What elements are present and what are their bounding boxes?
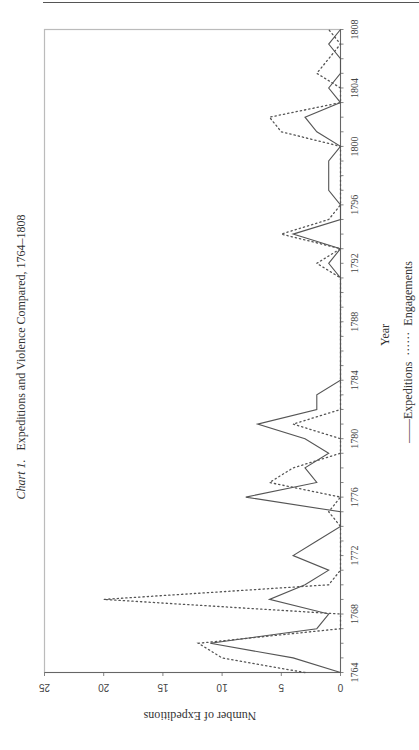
svg-text:1772: 1772 bbox=[349, 546, 360, 566]
year-tick-label: 1776 bbox=[349, 487, 360, 507]
legend-expeditions-label: Expeditions bbox=[401, 361, 415, 419]
y-axis-title-text: Number of Expeditions bbox=[143, 709, 256, 723]
legend-expeditions-glyph: —— bbox=[401, 418, 415, 444]
plot-frame bbox=[45, 30, 341, 673]
year-tick-label: 1808 bbox=[349, 20, 360, 40]
svg-text:1776: 1776 bbox=[349, 487, 360, 507]
svg-text:0: 0 bbox=[337, 682, 343, 693]
year-tick-label: 1784 bbox=[349, 370, 360, 390]
x-axis-title-text: Year bbox=[378, 324, 392, 346]
year-tick-label: 1800 bbox=[349, 136, 360, 156]
year-tick-label: 1768 bbox=[349, 604, 360, 624]
svg-text:1808: 1808 bbox=[349, 20, 360, 40]
svg-text:1780: 1780 bbox=[349, 429, 360, 449]
legend-engagements-glyph: ······ bbox=[401, 332, 415, 356]
value-tick-label: 10 bbox=[216, 682, 228, 693]
value-tick-label: 20 bbox=[98, 682, 110, 693]
svg-text:1768: 1768 bbox=[349, 604, 360, 624]
year-tick-label: 1796 bbox=[349, 195, 360, 215]
legend-engagements-label: Engagements bbox=[401, 261, 415, 326]
chart-title-prefix: Chart 1. bbox=[14, 460, 28, 500]
legend: ——Expeditions ······ Engagements bbox=[401, 261, 415, 444]
year-tick-label: 1764 bbox=[349, 663, 360, 683]
value-tick-label: 25 bbox=[39, 682, 51, 693]
year-tick-label: 1792 bbox=[349, 253, 360, 273]
chart: Chart 1. Expeditions and Violence Compar… bbox=[0, 0, 419, 750]
chart-title: Chart 1. Expeditions and Violence Compar… bbox=[14, 214, 28, 499]
svg-text:1784: 1784 bbox=[349, 370, 360, 390]
svg-text:15: 15 bbox=[157, 682, 169, 693]
svg-text:10: 10 bbox=[216, 682, 228, 693]
value-tick-label: 5 bbox=[278, 682, 284, 693]
svg-text:Chart 1. Expeditions a: Chart 1. Expeditions and Violence Compar… bbox=[14, 214, 28, 499]
svg-text:1796: 1796 bbox=[349, 195, 360, 215]
svg-text:1764: 1764 bbox=[349, 663, 360, 683]
svg-text:1800: 1800 bbox=[349, 136, 360, 156]
year-tick-label: 1772 bbox=[349, 546, 360, 566]
series-expeditions bbox=[210, 30, 340, 673]
series-layer bbox=[104, 30, 341, 673]
year-ticks: 1764176817721776178017841788179217961800… bbox=[341, 20, 361, 683]
svg-text:——Expeditions ······: ——Expeditions ······ Engagements bbox=[401, 261, 415, 444]
svg-text:20: 20 bbox=[98, 682, 110, 693]
series-engagements bbox=[104, 30, 341, 673]
x-axis-title: Year bbox=[378, 324, 392, 346]
year-tick-label: 1804 bbox=[349, 78, 360, 98]
svg-text:1804: 1804 bbox=[349, 78, 360, 98]
value-ticks: 0510152025 bbox=[39, 673, 344, 694]
year-tick-label: 1780 bbox=[349, 429, 360, 449]
value-tick-label: 15 bbox=[157, 682, 169, 693]
chart-title-text: Expeditions and Violence Compared, 1764–… bbox=[14, 214, 28, 450]
y-axis-title: Number of Expeditions bbox=[143, 709, 256, 723]
svg-text:5: 5 bbox=[278, 682, 284, 693]
year-tick-label: 1788 bbox=[349, 312, 360, 332]
value-tick-label: 0 bbox=[337, 682, 343, 693]
svg-text:1792: 1792 bbox=[349, 253, 360, 273]
svg-text:25: 25 bbox=[39, 682, 51, 693]
svg-text:1788: 1788 bbox=[349, 312, 360, 332]
book-page: Chart 1. Expeditions and Violence Compar… bbox=[0, 0, 419, 750]
